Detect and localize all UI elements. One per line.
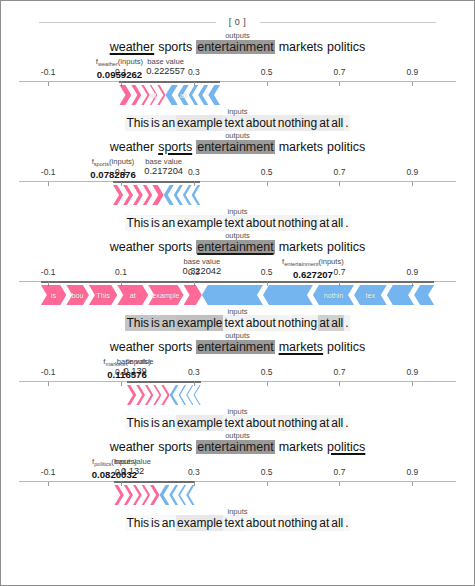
force-segment-pos[interactable] <box>133 185 143 205</box>
force-segment-neg[interactable] <box>202 285 263 305</box>
force-segment-neg[interactable] <box>174 185 183 205</box>
force-segment-pos[interactable] <box>131 85 141 105</box>
output-class-sports[interactable]: sports <box>158 440 192 454</box>
input-token-This[interactable]: This <box>125 215 150 231</box>
input-token-example[interactable]: example <box>176 415 223 431</box>
input-token-text[interactable]: text <box>223 315 244 331</box>
force-segment-neg[interactable]: all <box>178 85 189 105</box>
output-class-entertainment[interactable]: entertainment <box>196 340 274 354</box>
force-segment-pos[interactable] <box>143 185 152 205</box>
input-token-nothing[interactable]: nothing <box>277 315 318 331</box>
force-segment-pos[interactable] <box>145 385 153 405</box>
force-segment-pos[interactable]: example <box>148 285 183 305</box>
force-segment-neg[interactable] <box>160 485 170 505</box>
force-segment-pos[interactable] <box>141 85 149 105</box>
output-class-weather[interactable]: weather <box>110 40 154 54</box>
input-token-is[interactable]: is <box>150 215 161 231</box>
output-class-sports[interactable]: sports <box>158 140 192 154</box>
input-token-This[interactable]: This <box>125 415 150 431</box>
output-class-entertainment[interactable]: entertainment <box>196 440 274 454</box>
force-segment-neg[interactable]: tex <box>354 285 387 305</box>
output-class-sports[interactable]: sports <box>158 240 192 254</box>
input-token-at[interactable]: at <box>318 115 330 131</box>
input-token-all[interactable]: all <box>330 215 344 231</box>
input-token-at[interactable]: at <box>318 315 330 331</box>
force-segment-neg[interactable]: nothin <box>313 285 354 305</box>
input-token-all[interactable]: all <box>330 515 344 531</box>
input-token-all[interactable]: all <box>330 315 344 331</box>
force-segment-pos[interactable] <box>124 485 133 505</box>
input-token-nothing[interactable]: nothing <box>277 415 318 431</box>
output-class-sports[interactable]: sports <box>158 40 192 54</box>
force-segment-pos[interactable] <box>113 185 123 205</box>
input-token-dot[interactable]: . <box>344 515 349 531</box>
input-token-about[interactable]: about <box>245 115 277 131</box>
input-token-an[interactable]: an <box>161 115 176 131</box>
output-class-markets[interactable]: markets <box>279 140 323 154</box>
output-class-weather[interactable]: weather <box>110 340 154 354</box>
force-segment-pos[interactable] <box>157 85 165 105</box>
force-segment-pos[interactable] <box>119 85 131 105</box>
input-token-dot[interactable]: . <box>344 115 349 131</box>
input-token-text[interactable]: text <box>223 215 244 231</box>
input-token-is[interactable]: is <box>150 415 161 431</box>
output-class-markets[interactable]: markets <box>279 240 323 254</box>
input-token-nothing[interactable]: nothing <box>277 215 318 231</box>
input-token-text[interactable]: text <box>223 415 244 431</box>
input-token-This[interactable]: This <box>125 515 150 531</box>
input-token-at[interactable]: at <box>318 415 330 431</box>
output-class-politics[interactable]: politics <box>327 340 365 354</box>
output-class-markets[interactable]: markets <box>279 40 323 54</box>
force-segment-pos[interactable] <box>152 185 163 205</box>
force-segment-neg[interactable] <box>178 485 186 505</box>
output-class-weather[interactable]: weather <box>110 240 154 254</box>
force-segment-pos[interactable]: This <box>89 285 117 305</box>
input-token-example[interactable]: example <box>176 315 223 331</box>
output-class-entertainment[interactable]: entertainment <box>196 240 274 254</box>
output-class-weather[interactable]: weather <box>110 440 154 454</box>
input-token-This[interactable]: This <box>125 115 150 131</box>
input-token-nothing[interactable]: nothing <box>277 515 318 531</box>
force-segment-neg[interactable] <box>198 85 208 105</box>
input-token-all[interactable]: all <box>330 115 344 131</box>
force-segment-neg[interactable] <box>179 385 187 405</box>
force-segment-neg[interactable] <box>169 485 178 505</box>
input-token-an[interactable]: an <box>161 315 176 331</box>
force-segment-pos[interactable] <box>136 385 145 405</box>
force-segment-neg[interactable] <box>170 385 179 405</box>
output-class-politics[interactable]: politics <box>327 440 365 454</box>
force-segment-neg[interactable] <box>208 85 220 105</box>
output-class-sports[interactable]: sports <box>158 340 192 354</box>
force-segment-pos[interactable] <box>184 285 202 305</box>
input-token-example[interactable]: example <box>176 515 223 531</box>
force-segment-neg[interactable] <box>164 185 174 205</box>
input-token-an[interactable]: an <box>161 215 176 231</box>
force-segment-pos[interactable]: at <box>150 85 158 105</box>
force-segment-pos[interactable]: bou <box>66 285 89 305</box>
output-class-markets[interactable]: markets <box>279 440 323 454</box>
input-token-at[interactable]: at <box>318 515 330 531</box>
input-token-an[interactable]: an <box>161 415 176 431</box>
force-segment-neg[interactable] <box>192 185 201 205</box>
force-segment-pos[interactable] <box>123 185 133 205</box>
force-segment-neg[interactable] <box>166 85 178 105</box>
input-token-example[interactable]: example <box>176 215 223 231</box>
force-segment-pos[interactable] <box>133 485 142 505</box>
output-class-weather[interactable]: weather <box>110 140 154 154</box>
force-segment-neg[interactable] <box>183 185 192 205</box>
output-class-politics[interactable]: politics <box>327 240 365 254</box>
input-token-text[interactable]: text <box>223 115 244 131</box>
input-token-This[interactable]: This <box>125 315 150 331</box>
input-token-dot[interactable]: . <box>344 415 349 431</box>
force-segment-pos[interactable] <box>161 385 169 405</box>
force-segment-pos[interactable]: at <box>117 285 148 305</box>
output-class-politics[interactable]: politics <box>327 40 365 54</box>
input-token-dot[interactable]: . <box>344 215 349 231</box>
input-token-is[interactable]: is <box>150 115 161 131</box>
force-segment-neg[interactable] <box>414 285 434 305</box>
input-token-about[interactable]: about <box>245 515 277 531</box>
force-segment-neg[interactable] <box>186 385 193 405</box>
input-token-nothing[interactable]: nothing <box>277 115 318 131</box>
input-token-an[interactable]: an <box>161 515 176 531</box>
force-segment-neg[interactable] <box>189 85 198 105</box>
